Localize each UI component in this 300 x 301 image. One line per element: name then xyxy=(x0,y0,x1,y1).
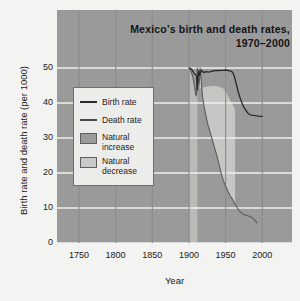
y-tick-50: 50 xyxy=(31,62,53,72)
y-tick-40: 40 xyxy=(31,97,53,107)
legend-item-natural-increase: Natural increase xyxy=(80,132,134,152)
x-tick-1950: 1950 xyxy=(206,250,246,260)
legend-label-death-rate: Death rate xyxy=(102,115,142,125)
legend-label-birth-rate: Birth rate xyxy=(102,97,137,107)
birth-rate-line-key-icon xyxy=(80,101,97,103)
x-tick-1750: 1750 xyxy=(59,250,99,260)
y-tick-30: 30 xyxy=(31,132,53,142)
x-tick-1850: 1850 xyxy=(132,250,172,260)
y-axis-label: Birth rate and death rate (per 1000) xyxy=(18,46,29,236)
legend-label-natural-decrease: Natural decrease xyxy=(102,156,137,176)
legend-item-natural-decrease: Natural decrease xyxy=(80,156,137,176)
natural-increase-swatch-icon xyxy=(80,133,97,144)
y-tick-20: 20 xyxy=(31,167,53,177)
legend-item-birth-rate: Birth rate xyxy=(80,97,137,107)
y-tick-10: 10 xyxy=(31,202,53,212)
x-axis-ticks xyxy=(79,243,262,248)
natural-decrease-swatch-icon xyxy=(80,157,97,168)
x-tick-2000: 2000 xyxy=(242,250,282,260)
chart-title-line2: 1970–2000 xyxy=(110,36,290,50)
figure-container: Mexico's birth and death rates, 1970–200… xyxy=(0,0,300,301)
x-tick-1900: 1900 xyxy=(169,250,209,260)
y-tick-0: 0 xyxy=(31,237,53,247)
natural-increase-area xyxy=(197,68,235,205)
chart-title: Mexico's birth and death rates, 1970–200… xyxy=(110,22,290,50)
legend-label-natural-increase: Natural increase xyxy=(102,132,134,152)
x-tick-1800: 1800 xyxy=(96,250,136,260)
legend-item-death-rate: Death rate xyxy=(80,115,142,125)
x-axis-label: Year xyxy=(57,275,292,286)
chart-legend: Birth rate Death rate Natural increase N… xyxy=(73,87,154,186)
death-rate-line-key-icon xyxy=(80,119,97,121)
chart-title-line1: Mexico's birth and death rates, xyxy=(130,23,290,35)
